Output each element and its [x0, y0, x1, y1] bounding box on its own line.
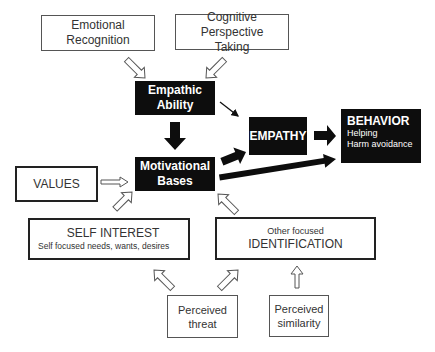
node-self-interest: SELF INTEREST Self focused needs, wants,… [28, 218, 190, 260]
node-empathy: EMPATHY [249, 117, 307, 155]
node-motivational-bases: Motivational Bases [135, 157, 215, 191]
label-line2: Ability [157, 98, 194, 113]
solid-arrow-empathy-to-behavior [314, 125, 336, 146]
self-interest-subtitle: Self focused needs, wants, desires [38, 240, 169, 252]
label-line1: Empathic [148, 83, 202, 98]
solid-arrow-motivational-to-empathy [219, 144, 250, 170]
node-identification: Other focused IDENTIFICATION [215, 217, 376, 260]
behavior-title: BEHAVIOR [347, 114, 409, 128]
label-line2: Bases [157, 174, 192, 189]
self-interest-title: SELF INTEREST [67, 226, 160, 240]
node-perceived-similarity: Perceived similarity [269, 295, 329, 337]
node-empathic-ability: Empathic Ability [135, 81, 215, 115]
hollow-arrow-emotional-to-empathic [122, 55, 150, 83]
label-line2: Recognition [66, 33, 129, 48]
thin-arrow-empathic-to-empathy [220, 102, 238, 116]
hollow-arrow-similarity-to-identification [291, 266, 303, 288]
label: EMPATHY [250, 129, 307, 144]
label-line1: Perceived [178, 303, 227, 317]
hollow-arrow-selfinterest-to-motivational [110, 187, 137, 214]
label-line1: Emotional [71, 18, 124, 33]
label-line2: similarity [278, 316, 321, 330]
label: VALUES [33, 177, 79, 192]
node-emotional-recognition: Emotional Recognition [41, 15, 155, 51]
label-line1: Cognitive Perspective [176, 10, 288, 40]
behavior-item-harm-avoidance: Harm avoidance [347, 139, 413, 150]
hollow-arrow-cognitive-to-empathic [201, 55, 229, 83]
hollow-arrow-identification-to-motivational [213, 189, 241, 217]
solid-arrow-empathic-to-motivational [164, 122, 186, 150]
node-behavior: BEHAVIOR Helping Harm avoidance [341, 109, 421, 163]
node-cognitive-perspective-taking: Cognitive Perspective Taking [175, 14, 289, 50]
label-line1: Motivational [140, 159, 210, 174]
hollow-arrow-threat-to-identification [215, 265, 243, 293]
identification-subtitle: Other focused [267, 225, 324, 237]
identification-title: IDENTIFICATION [248, 237, 342, 252]
behavior-item-helping: Helping [347, 128, 378, 139]
label-line2: threat [188, 317, 216, 331]
node-values: VALUES [15, 166, 98, 202]
label-line2: Taking [215, 40, 250, 55]
hollow-arrow-threat-to-selfinterest [149, 265, 177, 293]
label-line1: Perceived [275, 302, 324, 316]
node-perceived-threat: Perceived threat [167, 295, 238, 338]
hollow-arrow-values-to-motivational [101, 177, 128, 187]
